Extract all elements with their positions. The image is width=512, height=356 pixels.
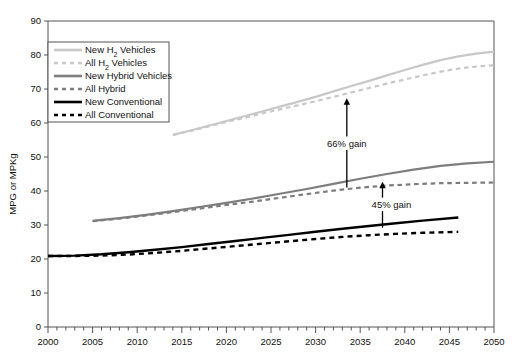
x-axis-minor-ticks (48, 327, 494, 333)
y-tick-label: 40 (30, 185, 41, 196)
annotation-arrow-head (344, 98, 350, 105)
annotation-label: 66% gain (327, 138, 367, 149)
x-axis-labels: 2000200520102015202020252030203520402045… (37, 336, 504, 347)
series-line-new-conventional (48, 218, 458, 256)
y-tick-label: 50 (30, 151, 41, 162)
annotations-group: 66% gain45% gain (323, 98, 416, 228)
series-line-new-hybrid-vehicles (93, 162, 494, 221)
x-tick-label: 2000 (37, 336, 58, 347)
legend-label-5: All Conventional (85, 109, 154, 120)
series-line-new-h2-vehicles (173, 52, 494, 135)
x-tick-label: 2030 (305, 336, 326, 347)
annotation-label: 45% gain (372, 199, 412, 210)
y-tick-label: 90 (30, 15, 41, 26)
y-tick-label: 70 (30, 83, 41, 94)
series-line-all-conventional (48, 232, 458, 256)
y-tick-label: 20 (30, 253, 41, 264)
series-line-all-hybrid (93, 183, 494, 222)
x-tick-label: 2020 (216, 336, 237, 347)
x-tick-label: 2040 (394, 336, 415, 347)
legend-label-2: New Hybrid Vehicles (85, 70, 172, 81)
series-line-all-h2-vehicles (173, 65, 494, 135)
y-axis-ticks: 0102030405060708090 (30, 15, 48, 332)
x-tick-label: 2015 (171, 336, 192, 347)
y-tick-label: 60 (30, 117, 41, 128)
chart-canvas: 0102030405060708090200020052010201520202… (0, 0, 512, 356)
y-tick-label: 30 (30, 219, 41, 230)
y-axis-title: MPG or MPKg (7, 153, 18, 214)
y-tick-label: 80 (30, 49, 41, 60)
x-tick-label: 2025 (260, 336, 281, 347)
x-tick-label: 2045 (439, 336, 460, 347)
x-tick-label: 2005 (82, 336, 103, 347)
fuel-economy-chart: 0102030405060708090200020052010201520202… (0, 0, 512, 356)
y-tick-label: 0 (36, 321, 41, 332)
y-tick-label: 10 (30, 287, 41, 298)
legend-label-4: New Conventional (85, 96, 162, 107)
x-tick-label: 2010 (127, 336, 148, 347)
legend: New H2 VehiclesAll H2 VehiclesNew Hybrid… (48, 42, 172, 122)
x-tick-label: 2035 (350, 336, 371, 347)
x-tick-label: 2050 (483, 336, 504, 347)
legend-label-3: All Hybrid (85, 83, 126, 94)
